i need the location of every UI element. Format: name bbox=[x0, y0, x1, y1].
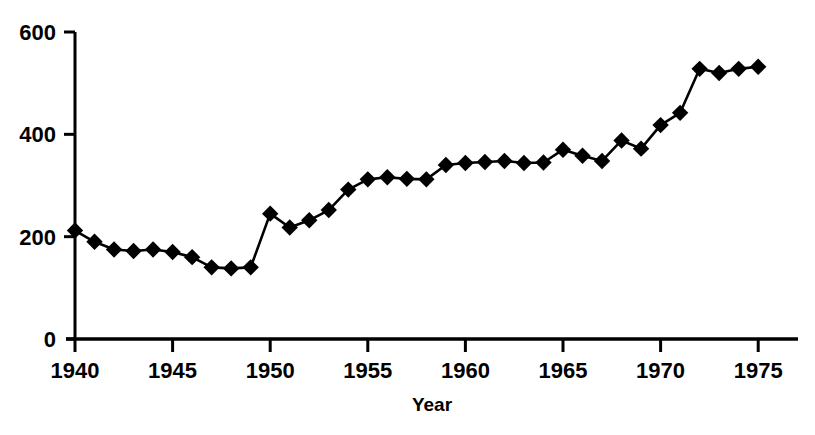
x-axis-tick-labels: 19401945195019551960196519701975 bbox=[51, 358, 783, 383]
data-point-marker bbox=[106, 241, 122, 257]
data-point-marker bbox=[457, 155, 473, 171]
x-tick-label: 1975 bbox=[734, 358, 783, 383]
data-point-marker bbox=[574, 148, 590, 164]
data-point-marker bbox=[555, 141, 571, 157]
x-tick-label: 1950 bbox=[246, 358, 295, 383]
line-chart: 0200400600 19401945195019551960196519701… bbox=[0, 0, 815, 435]
data-point-marker bbox=[496, 153, 512, 169]
x-tick-label: 1970 bbox=[636, 358, 685, 383]
x-tick-label: 1965 bbox=[539, 358, 588, 383]
data-point-marker bbox=[360, 171, 376, 187]
data-point-marker bbox=[477, 154, 493, 170]
data-point-marker bbox=[301, 212, 317, 228]
data-point-marker bbox=[691, 61, 707, 77]
data-point-markers bbox=[67, 59, 767, 277]
data-point-marker bbox=[535, 154, 551, 170]
x-axis-ticks bbox=[75, 339, 758, 352]
data-point-marker bbox=[379, 169, 395, 185]
x-tick-label: 1960 bbox=[441, 358, 490, 383]
data-point-marker bbox=[672, 105, 688, 121]
y-tick-label: 600 bbox=[19, 20, 56, 45]
data-point-marker bbox=[184, 249, 200, 265]
chart-container: 0200400600 19401945195019551960196519701… bbox=[0, 0, 815, 435]
x-tick-label: 1940 bbox=[51, 358, 100, 383]
data-point-marker bbox=[262, 205, 278, 221]
data-point-marker bbox=[125, 243, 141, 259]
data-series-line bbox=[75, 67, 758, 269]
x-tick-label: 1955 bbox=[343, 358, 392, 383]
data-point-marker bbox=[223, 260, 239, 276]
data-point-marker bbox=[750, 59, 766, 75]
y-axis-ticks bbox=[64, 32, 75, 339]
x-tick-label: 1945 bbox=[148, 358, 197, 383]
data-point-marker bbox=[164, 244, 180, 260]
y-axis-tick-labels: 0200400600 bbox=[19, 20, 56, 352]
y-tick-label: 200 bbox=[19, 225, 56, 250]
x-axis-title: Year bbox=[412, 394, 453, 415]
data-point-marker bbox=[203, 259, 219, 275]
data-point-marker bbox=[242, 259, 258, 275]
y-tick-label: 0 bbox=[44, 327, 56, 352]
data-point-marker bbox=[711, 65, 727, 81]
data-point-marker bbox=[282, 219, 298, 235]
y-tick-label: 400 bbox=[19, 122, 56, 147]
data-point-marker bbox=[145, 241, 161, 257]
data-point-marker bbox=[399, 171, 415, 187]
data-point-marker bbox=[86, 234, 102, 250]
data-point-marker bbox=[516, 155, 532, 171]
data-point-marker bbox=[730, 61, 746, 77]
